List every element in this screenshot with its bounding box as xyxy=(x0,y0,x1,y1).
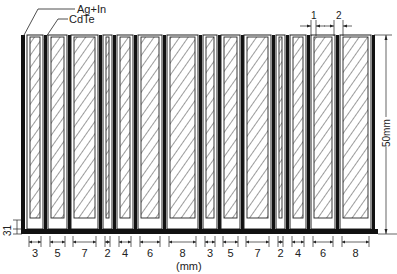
detector-strip xyxy=(117,35,137,231)
strip-width-label: 4 xyxy=(122,247,128,259)
cdte-region xyxy=(206,37,214,218)
strip-width-dimension: 7 xyxy=(246,236,269,259)
detector-strip xyxy=(167,35,202,231)
gap-1-label: 1 xyxy=(311,10,317,21)
electrode-bar xyxy=(199,35,202,231)
electrode-bar xyxy=(134,35,137,231)
strip-width-label: 6 xyxy=(320,247,326,259)
gap-1-dimension: 1 xyxy=(300,10,325,36)
detector-strip xyxy=(221,35,244,231)
strip-width-label: 2 xyxy=(277,247,283,259)
cdte-region xyxy=(224,37,237,218)
strip-width-dimension: 6 xyxy=(140,236,160,259)
strip-width-label: 3 xyxy=(32,247,38,259)
strip-width-label: 5 xyxy=(54,247,60,259)
cdte-region xyxy=(106,37,109,218)
height-dimension: 50mm xyxy=(374,35,397,234)
strip-width-dimensions: 35724683572468 xyxy=(29,236,369,259)
strip-width-dimension: 5 xyxy=(223,236,238,259)
strip-width-dimension: 7 xyxy=(73,236,96,259)
base-thickness-label: 31 xyxy=(2,224,13,236)
cdte-region xyxy=(343,37,368,218)
base-thickness-dimension: 31 xyxy=(2,220,22,236)
cdte-region xyxy=(293,37,303,218)
strip-width-label: 8 xyxy=(352,247,358,259)
electrode-bar xyxy=(44,35,47,231)
detector-strip xyxy=(244,35,275,231)
cdte-region xyxy=(51,37,64,218)
strip-width-dimension: 8 xyxy=(342,236,369,259)
height-label: 50mm xyxy=(381,119,392,147)
detector-strip xyxy=(48,35,71,231)
strip-width-dimension: 5 xyxy=(50,236,65,259)
gap-2-dimension: 2 xyxy=(324,10,352,36)
strip-width-label: 6 xyxy=(147,247,153,259)
electrode-bar xyxy=(99,35,102,231)
electrode-bar xyxy=(286,35,289,231)
strip-width-dimension: 2 xyxy=(277,236,283,259)
electrode-bar xyxy=(272,35,275,231)
semiconductor-label: CdTe xyxy=(69,13,95,25)
detector-strip xyxy=(138,35,166,231)
strip-width-label: 7 xyxy=(254,247,260,259)
strip-width-dimension: 4 xyxy=(292,236,304,259)
strip-width-dimension: 4 xyxy=(119,236,131,259)
strip-width-dimension: 8 xyxy=(169,236,196,259)
electrode-bar xyxy=(372,35,375,231)
electrode-bar xyxy=(113,35,116,231)
cdte-region xyxy=(30,37,40,218)
cdte-region xyxy=(74,37,95,218)
strip-group xyxy=(27,35,375,231)
strip-width-label: 8 xyxy=(179,247,185,259)
strip-width-label: 7 xyxy=(81,247,87,259)
detector-strip xyxy=(340,35,375,231)
strip-width-label: 2 xyxy=(104,247,110,259)
strip-width-dimension: 2 xyxy=(104,236,110,259)
gap-2-label: 2 xyxy=(336,10,342,21)
strip-width-dimension: 6 xyxy=(313,236,333,259)
strip-width-label: 3 xyxy=(207,247,213,259)
detector-strip xyxy=(290,35,310,231)
unit-label: (mm) xyxy=(176,260,202,272)
electrode-base-bar xyxy=(21,229,378,234)
cdte-region xyxy=(279,37,282,218)
detector-strip xyxy=(311,35,339,231)
cdte-region xyxy=(170,37,195,218)
detector-strip xyxy=(203,35,221,231)
detector-strip xyxy=(276,35,289,231)
detector-strip xyxy=(103,35,116,231)
strip-width-label: 4 xyxy=(295,247,301,259)
detector-strip xyxy=(71,35,102,231)
strip-width-label: 5 xyxy=(227,247,233,259)
strip-width-dimension: 3 xyxy=(29,236,41,259)
electrode-bar xyxy=(336,35,339,231)
cdte-region xyxy=(247,37,268,218)
cdte-detector-strip-diagram: Ag+In CdTe 1 2 50mm 31 3572468357 xyxy=(0,0,397,274)
electrode-bar xyxy=(307,35,310,231)
detector-strip xyxy=(27,35,47,231)
electrode-bar xyxy=(163,35,166,231)
cdte-region xyxy=(120,37,130,218)
cdte-region xyxy=(314,37,332,218)
cdte-region xyxy=(141,37,159,218)
strip-width-dimension: 3 xyxy=(205,236,215,259)
electrode-bar-left xyxy=(21,35,25,233)
